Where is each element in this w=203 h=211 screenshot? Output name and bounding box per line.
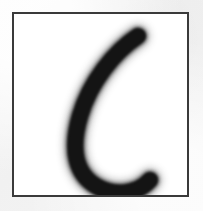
- handwritten-glyph-canvas: [14, 14, 187, 195]
- specimen-root: [0, 0, 203, 211]
- glyph-frame: [12, 12, 189, 197]
- glyph-canvas-background: [14, 14, 187, 195]
